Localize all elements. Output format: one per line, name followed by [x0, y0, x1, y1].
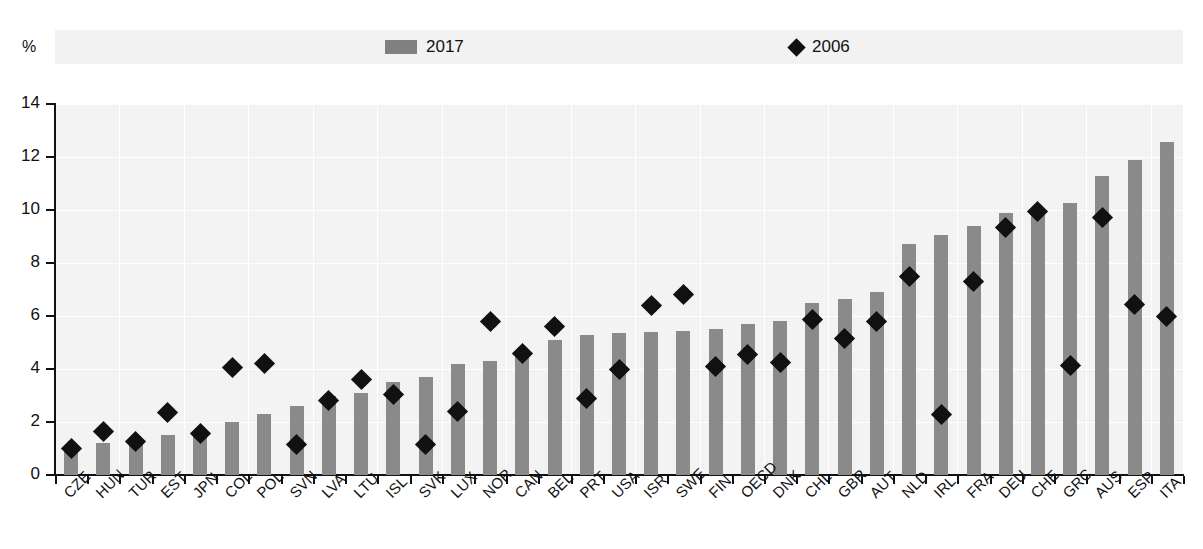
gridline-vertical: [377, 104, 378, 475]
y-axis-unit-label: %: [22, 38, 36, 56]
gridline-vertical: [313, 104, 314, 475]
bar-nor: [483, 361, 497, 475]
bar-deu: [999, 213, 1013, 475]
bar-hun: [96, 443, 110, 475]
bar-fin: [709, 329, 723, 475]
gridline-vertical: [1151, 104, 1152, 475]
bar-gbr: [838, 299, 852, 475]
y-axis-tick: [46, 262, 55, 264]
x-axis-tick: [410, 476, 412, 484]
bar-est: [161, 435, 175, 475]
chart-legend: 2017 2006: [55, 30, 1183, 64]
gridline-vertical: [1022, 104, 1023, 475]
gridline-vertical: [764, 104, 765, 475]
gridline-vertical: [442, 104, 443, 475]
y-axis-tick: [46, 315, 55, 317]
diamond-marker-icon: [787, 38, 805, 56]
bar-irl: [934, 235, 948, 475]
y-axis-tick-label: 8: [0, 252, 40, 272]
legend-item-label: 2006: [812, 37, 850, 57]
bar-usa: [612, 333, 626, 475]
bar-swe: [676, 331, 690, 475]
bar-fra: [967, 226, 981, 475]
x-axis-label-ita: ITA: [1156, 473, 1184, 501]
gridline-vertical: [571, 104, 572, 475]
bar-dnk: [773, 321, 787, 475]
gridline-vertical: [700, 104, 701, 475]
y-axis-tick-label: 4: [0, 358, 40, 378]
bar-svk: [419, 377, 433, 475]
gridline-vertical: [635, 104, 636, 475]
bar-pol: [257, 414, 271, 475]
legend-item-label: 2017: [426, 37, 464, 57]
gridline-vertical: [957, 104, 958, 475]
bar-can: [515, 353, 529, 475]
y-axis-tick-label: 0: [0, 464, 40, 484]
y-axis-tick-label: 2: [0, 411, 40, 431]
y-axis-tick: [46, 209, 55, 211]
gridline-horizontal: [55, 157, 1183, 158]
gridline-horizontal: [55, 263, 1183, 264]
y-axis-tick: [46, 421, 55, 423]
y-axis-tick: [46, 156, 55, 158]
legend-item-2017[interactable]: 2017: [385, 30, 464, 64]
gridline-vertical: [184, 104, 185, 475]
x-axis-label-isl: ISL: [382, 473, 410, 501]
x-axis-label-irl: IRL: [930, 472, 959, 501]
y-axis-tick: [46, 474, 55, 476]
y-axis-tick-label: 14: [0, 93, 40, 113]
bar-swatch-icon: [385, 40, 417, 54]
gridline-horizontal: [55, 210, 1183, 211]
bar-bel: [548, 340, 562, 475]
gridline-vertical: [506, 104, 507, 475]
legend-item-2006[interactable]: 2006: [790, 30, 850, 64]
bar-col: [225, 422, 239, 475]
x-axis-tick: [1183, 476, 1185, 484]
bar-che: [1031, 210, 1045, 475]
gridline-horizontal: [55, 316, 1183, 317]
bar-isr: [644, 332, 658, 475]
gridline-vertical: [893, 104, 894, 475]
chart-container: % 2017 2006 02468101214 CZEHUNTURESTJPNC…: [0, 0, 1203, 549]
y-axis-tick-label: 6: [0, 305, 40, 325]
bar-esp: [1128, 160, 1142, 475]
y-axis-tick: [46, 103, 55, 105]
bar-grc: [1063, 203, 1077, 475]
gridline-vertical: [248, 104, 249, 475]
gridline-vertical: [828, 104, 829, 475]
bar-ltu: [354, 393, 368, 475]
y-axis-tick-label: 12: [0, 146, 40, 166]
gridline-vertical: [1086, 104, 1087, 475]
gridline-vertical: [119, 104, 120, 475]
y-axis-tick-label: 10: [0, 199, 40, 219]
x-axis-tick: [55, 476, 57, 484]
gridline-horizontal: [55, 104, 1183, 105]
y-axis-tick: [46, 368, 55, 370]
